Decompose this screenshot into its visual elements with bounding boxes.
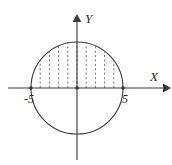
x-tick-label-negative-five: -5 [24,93,34,105]
x-axis-arrow-icon [163,84,171,93]
y-axis-arrow-icon [73,14,82,22]
x-axis-label: X [150,70,158,83]
y-axis-label: Y [85,12,92,25]
right-intercept-point [121,86,124,89]
left-intercept-point [29,86,32,89]
origin-point [75,86,78,89]
x-tick-label-positive-five: 5 [122,93,128,105]
geometry-figure: X Y -5 5 [0,0,172,165]
